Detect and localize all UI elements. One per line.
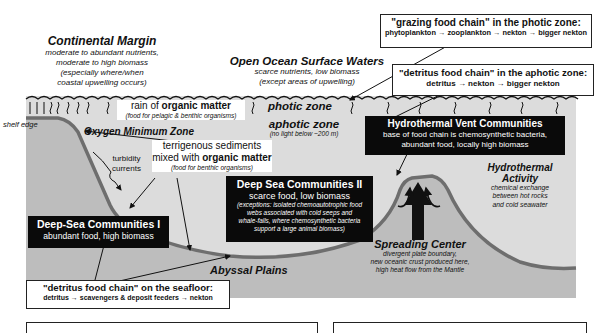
hydrothermal-activity-label: Hydrothermal Activity chemical exchange … xyxy=(465,162,575,209)
grazing-food-chain-box: "grazing food chain" in the photic zone:… xyxy=(380,14,592,48)
detritus-aphotic-box: "detritus food chain" in the aphotic zon… xyxy=(392,64,594,96)
turbidity-currents-label: turbidity currents xyxy=(112,154,141,173)
detritus-seafloor-box: "detritus food chain" on the seafloor: d… xyxy=(26,280,230,309)
oxygen-minimum-zone-label: Oxygen Minimum Zone xyxy=(84,126,194,137)
bottom-left-box-partial xyxy=(26,322,318,333)
deep-sea-communities-1-box: Deep-Sea Communities I abundant food, hi… xyxy=(28,216,169,248)
continental-margin-title: Continental Margin xyxy=(22,34,182,48)
detritus-aphotic-chain: detritus → nekton → bigger nekton xyxy=(393,79,593,89)
open-ocean-title: Open Ocean Surface Waters xyxy=(222,55,392,67)
open-ocean-desc: scarce nutrients, low biomass (except ar… xyxy=(222,67,392,87)
aphotic-zone-label: aphotic zone (no light below ~200 m) xyxy=(258,118,350,137)
hydrothermal-vent-communities-box: Hydrothermal Vent Communities base of fo… xyxy=(365,116,565,155)
photic-zone-label: photic zone xyxy=(268,100,332,112)
continental-margin-desc: moderate to abundant nutrients, moderate… xyxy=(22,48,182,88)
grazing-chain: phytoplankton → zooplankton → nekton → b… xyxy=(381,29,591,38)
bottom-right-box-partial xyxy=(333,322,587,333)
open-ocean-label: Open Ocean Surface Waters scarce nutrien… xyxy=(222,55,392,87)
continental-margin-label: Continental Margin moderate to abundant … xyxy=(22,34,182,88)
terrigenous-sediments-label: terrigenous sediments mixed with organic… xyxy=(152,140,272,172)
shelf-edge-label: shelf edge xyxy=(3,120,38,129)
abyssal-plains-label: Abyssal Plains xyxy=(210,264,288,276)
detritus-aphotic-title: "detritus food chain" in the aphotic zon… xyxy=(393,67,593,79)
deep-sea-communities-2-box: Deep Sea Communities II scarce food, low… xyxy=(226,176,373,242)
spreading-center-label: Spreading Center divergent plate boundar… xyxy=(350,238,490,275)
organic-rain-label: rain of organic matter (food for pelagic… xyxy=(117,100,245,120)
